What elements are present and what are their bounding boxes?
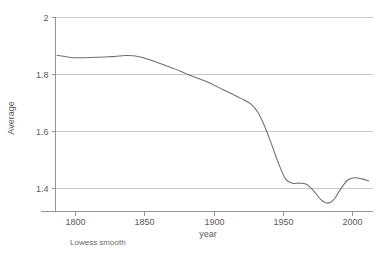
- x-axis-title: year: [199, 229, 217, 239]
- chart-caption: Lowess smooth: [70, 238, 126, 247]
- gridlines-group: [56, 18, 373, 189]
- y-tick-label: 1.6: [36, 127, 49, 137]
- y-axis-title: Average: [6, 101, 16, 134]
- chart-container: 18001850190019502000 1.41.61.82 year Ave…: [0, 0, 383, 260]
- x-tick-label: 1800: [65, 217, 85, 227]
- y-tick-label: 2: [43, 13, 48, 23]
- y-tick-label: 1.8: [36, 70, 49, 80]
- lowess-smooth-line-chart: 18001850190019502000 1.41.61.82 year Ave…: [0, 0, 383, 260]
- x-tick-label: 2000: [342, 217, 362, 227]
- y-tick-label: 1.4: [36, 184, 49, 194]
- tickmarks-group: [52, 18, 353, 216]
- y-tick-labels-group: 1.41.61.82: [36, 13, 49, 194]
- x-tick-label: 1950: [273, 217, 293, 227]
- series-line-lowess-smooth: [57, 55, 369, 203]
- x-tick-label: 1900: [204, 217, 224, 227]
- x-tick-labels-group: 18001850190019502000: [65, 217, 362, 227]
- x-tick-label: 1850: [134, 217, 154, 227]
